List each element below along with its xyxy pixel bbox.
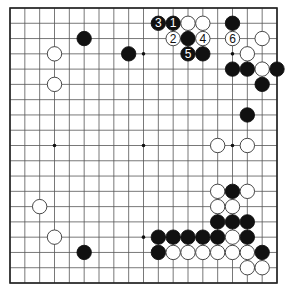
black-stone: [151, 230, 165, 244]
black-stone: [77, 31, 91, 45]
black-stone: [181, 31, 195, 45]
white-stone: [225, 245, 239, 259]
white-stone: [210, 199, 224, 213]
black-stone: [196, 47, 210, 61]
black-stone: [225, 215, 239, 229]
white-stone: [240, 47, 254, 61]
white-stone: [210, 138, 224, 152]
white-stone: [47, 77, 61, 91]
white-stone: [225, 230, 239, 244]
star-point: [142, 144, 146, 148]
move-number: 1: [170, 16, 177, 30]
black-stone: [240, 108, 254, 122]
black-stone: [210, 215, 224, 229]
white-stone: [181, 16, 195, 30]
black-stone: [270, 62, 284, 76]
move-number: 4: [199, 32, 206, 46]
white-stone: [210, 184, 224, 198]
black-stone: [240, 230, 254, 244]
black-stone: [166, 230, 180, 244]
move-number: 2: [170, 32, 177, 46]
white-stone: [47, 47, 61, 61]
star-point: [53, 144, 57, 148]
move-number: 6: [229, 32, 236, 46]
star-point: [142, 235, 146, 239]
move-number: 5: [185, 47, 192, 61]
black-stone: [77, 245, 91, 259]
white-stone: [47, 230, 61, 244]
white-stone: [240, 261, 254, 275]
white-stone: [166, 245, 180, 259]
white-stone: [255, 62, 269, 76]
white-stone: 4: [196, 31, 210, 45]
black-stone: [240, 62, 254, 76]
black-stone: [151, 245, 165, 259]
star-point: [142, 52, 146, 56]
white-stone: [255, 261, 269, 275]
white-stone: [32, 199, 46, 213]
black-stone: [225, 16, 239, 30]
go-board: 312465: [0, 0, 286, 296]
black-stone: [210, 230, 224, 244]
white-stone: [240, 184, 254, 198]
black-stone: [255, 245, 269, 259]
star-point: [231, 144, 235, 148]
white-stone: [240, 138, 254, 152]
white-stone: [196, 245, 210, 259]
white-stone: [196, 16, 210, 30]
white-stone: [255, 31, 269, 45]
black-stone: [225, 62, 239, 76]
white-stone: 6: [225, 31, 239, 45]
black-stone: [225, 184, 239, 198]
white-stone: [240, 245, 254, 259]
white-stone: 2: [166, 31, 180, 45]
black-stone: [255, 77, 269, 91]
black-stone: 5: [181, 47, 195, 61]
star-point: [231, 52, 235, 56]
black-stone: 3: [151, 16, 165, 30]
black-stone: 1: [166, 16, 180, 30]
white-stone: [225, 199, 239, 213]
white-stone: [210, 245, 224, 259]
white-stone: [181, 245, 195, 259]
black-stone: [121, 47, 135, 61]
black-stone: [196, 230, 210, 244]
move-number: 3: [155, 16, 162, 30]
black-stone: [181, 230, 195, 244]
black-stone: [240, 215, 254, 229]
